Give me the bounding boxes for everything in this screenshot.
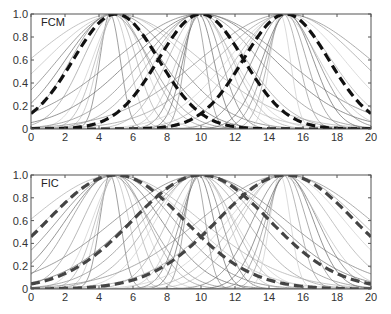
x-tick-label: 0 xyxy=(28,291,34,303)
y-tick-label: 0.8 xyxy=(13,31,28,43)
x-tick-label: 10 xyxy=(195,291,207,303)
x-tick-label: 10 xyxy=(195,131,207,143)
x-tick-label: 2 xyxy=(62,131,68,143)
x-tick-label: 8 xyxy=(164,131,170,143)
plot-area xyxy=(31,14,371,129)
x-tick-label: 0 xyxy=(28,131,34,143)
y-tick-label: 0.4 xyxy=(13,237,28,249)
y-tick-label: 0 xyxy=(22,283,28,295)
y-tick-label: 0.6 xyxy=(13,215,28,227)
x-tick-label: 14 xyxy=(263,291,275,303)
y-tick-label: 0 xyxy=(22,123,28,135)
x-tick-label: 20 xyxy=(365,131,377,143)
x-tick-label: 18 xyxy=(331,291,343,303)
fic-chart-panel: 0246810121416182000.20.40.60.81.0FIC xyxy=(0,160,391,314)
y-tick-label: 0.8 xyxy=(13,192,28,204)
y-tick-label: 1.0 xyxy=(13,169,28,181)
x-tick-label: 4 xyxy=(96,291,102,303)
x-tick-label: 2 xyxy=(62,291,68,303)
x-tick-label: 4 xyxy=(96,131,102,143)
y-tick-label: 0.2 xyxy=(13,260,28,272)
x-tick-label: 12 xyxy=(229,291,241,303)
x-tick-label: 16 xyxy=(297,291,309,303)
x-tick-label: 18 xyxy=(331,131,343,143)
y-tick-label: 1.0 xyxy=(13,8,28,20)
y-tick-label: 0.6 xyxy=(13,54,28,66)
x-tick-label: 6 xyxy=(130,131,136,143)
fic-chart: 0246810121416182000.20.40.60.81.0FIC xyxy=(0,160,391,314)
membership-curve xyxy=(31,175,371,289)
y-tick-label: 0.4 xyxy=(13,77,28,89)
x-tick-label: 14 xyxy=(263,131,275,143)
fcm-chart-panel: 0246810121416182000.20.40.60.81.0FCM xyxy=(0,0,391,157)
x-tick-label: 6 xyxy=(130,291,136,303)
y-tick-label: 0.2 xyxy=(13,100,28,112)
x-tick-label: 20 xyxy=(365,291,377,303)
x-tick-label: 8 xyxy=(164,291,170,303)
x-tick-label: 16 xyxy=(297,131,309,143)
panel-label: FCM xyxy=(41,16,65,28)
x-tick-label: 12 xyxy=(229,131,241,143)
fcm-chart: 0246810121416182000.20.40.60.81.0FCM xyxy=(0,0,391,157)
plot-area xyxy=(31,175,371,289)
panel-label: FIC xyxy=(41,177,59,189)
